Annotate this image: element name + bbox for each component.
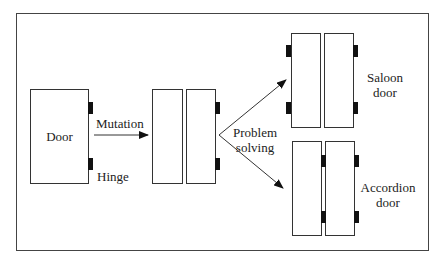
saloon-label-line2: door [360, 85, 410, 100]
accordion-door-left-panel [292, 141, 322, 236]
hinge-icon [215, 102, 220, 114]
saloon-door-label: Saloon door [360, 70, 410, 100]
door-label: Door [30, 129, 89, 144]
mutation-label: Mutation [96, 116, 144, 131]
split-door-right-panel [186, 89, 216, 184]
hinge-label: Hinge [97, 169, 129, 184]
accordion-label-line2: door [358, 195, 418, 210]
hinge-icon [88, 102, 93, 114]
saloon-door-right-panel [324, 33, 354, 128]
hinge-icon [286, 45, 291, 57]
accordion-door-label: Accordion door [358, 180, 418, 210]
hinge-icon [321, 211, 326, 223]
hinge-icon [354, 155, 359, 167]
hinge-icon [286, 102, 291, 114]
problem-solving-line2: solving [230, 140, 280, 155]
hinge-icon [215, 158, 220, 170]
hinge-icon [354, 211, 359, 223]
problem-solving-line1: Problem [230, 125, 280, 140]
accordion-label-line1: Accordion [358, 180, 418, 195]
accordion-door-right-panel [325, 141, 355, 236]
problem-solving-label: Problem solving [230, 125, 280, 155]
hinge-icon [321, 155, 326, 167]
hinge-icon [353, 45, 358, 57]
saloon-door-left-panel [291, 33, 321, 128]
split-door-left-panel [152, 89, 183, 184]
hinge-icon [353, 102, 358, 114]
hinge-icon [88, 158, 93, 170]
saloon-label-line1: Saloon [360, 70, 410, 85]
